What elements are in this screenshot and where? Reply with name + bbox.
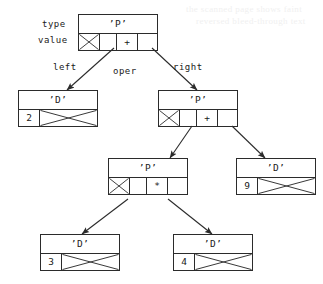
node-left-4-type-row: ’D’ (40, 234, 120, 253)
node-right-2-left-slot (180, 109, 197, 127)
node-left-3: ’P’ * (108, 158, 188, 195)
null-pointer-icon (62, 254, 119, 270)
node-right-4-unused-cell (195, 253, 253, 271)
node-right-2-oper-cell: + (197, 109, 218, 127)
node-right-3-value-cell: 9 (236, 177, 258, 195)
node-left-3-type-cell: ’P’ (108, 158, 188, 177)
node-left-4: ’D’ 3 (40, 234, 120, 271)
null-pointer-icon (40, 110, 97, 126)
node-right-4-value-cell: 4 (173, 253, 195, 271)
node-left-4-type-cell: ’D’ (40, 234, 120, 253)
node-left-2-value-row: 2 (18, 109, 98, 127)
node-left-3-value-row: * (108, 177, 188, 195)
node-left-4-value-row: 3 (40, 253, 120, 271)
arrow-node2-right (232, 126, 265, 158)
null-pointer-icon (159, 110, 179, 126)
label-right: right (173, 62, 203, 72)
node-left-3-left-ptr (108, 177, 130, 195)
bleed-through-text-line-2: reversed bleed-through text (196, 16, 306, 26)
arrow-node2-left (170, 126, 192, 158)
arrow-node3-left (82, 199, 128, 234)
null-pointer-icon (109, 178, 129, 194)
node-root-oper-cell: + (117, 33, 138, 51)
arrow-node3-right (168, 199, 212, 234)
node-left-4-unused-cell (62, 253, 120, 271)
node-right-2: ’P’ + (158, 90, 238, 127)
node-root-left-ptr (78, 33, 100, 51)
node-right-2-type-row: ’P’ (158, 90, 238, 109)
node-left-4-value-cell: 3 (40, 253, 62, 271)
node-right-4: ’D’ 4 (173, 234, 253, 271)
label-oper: oper (113, 66, 137, 76)
node-right-4-type-row: ’D’ (173, 234, 253, 253)
node-root-type-row: ’P’ (78, 14, 158, 33)
label-type: type (42, 19, 66, 29)
node-left-3-right-slot (168, 177, 188, 195)
null-pointer-icon (79, 34, 99, 50)
node-left-2-type-cell: ’D’ (18, 90, 98, 109)
node-root-left-slot (100, 33, 117, 51)
node-root-right-slot (138, 33, 158, 51)
node-right-2-value-row: + (158, 109, 238, 127)
node-left-3-left-slot (130, 177, 147, 195)
bleed-through-text-line-1: the scanned page shows faint (186, 4, 302, 14)
node-right-3-type-cell: ’D’ (236, 158, 316, 177)
node-root: ’P’ + (78, 14, 158, 51)
node-right-3: ’D’ 9 (236, 158, 316, 195)
expression-tree-diagram: the scanned page shows faint reversed bl… (0, 0, 323, 284)
node-left-3-type-row: ’P’ (108, 158, 188, 177)
null-pointer-icon (195, 254, 252, 270)
node-right-3-unused-cell (258, 177, 316, 195)
node-left-3-oper-cell: * (147, 177, 168, 195)
node-right-4-value-row: 4 (173, 253, 253, 271)
node-right-2-left-ptr (158, 109, 180, 127)
node-right-4-type-cell: ’D’ (173, 234, 253, 253)
node-left-2-value-cell: 2 (18, 109, 40, 127)
node-right-3-value-row: 9 (236, 177, 316, 195)
label-left: left (53, 62, 77, 72)
node-left-2-type-row: ’D’ (18, 90, 98, 109)
null-pointer-icon (258, 178, 315, 194)
label-value: value (38, 35, 68, 45)
node-left-2-unused-cell (40, 109, 98, 127)
node-root-type-cell: ’P’ (78, 14, 158, 33)
node-root-value-row: + (78, 33, 158, 51)
node-left-2: ’D’ 2 (18, 90, 98, 127)
node-right-3-type-row: ’D’ (236, 158, 316, 177)
node-right-2-type-cell: ’P’ (158, 90, 238, 109)
node-right-2-right-slot (218, 109, 238, 127)
